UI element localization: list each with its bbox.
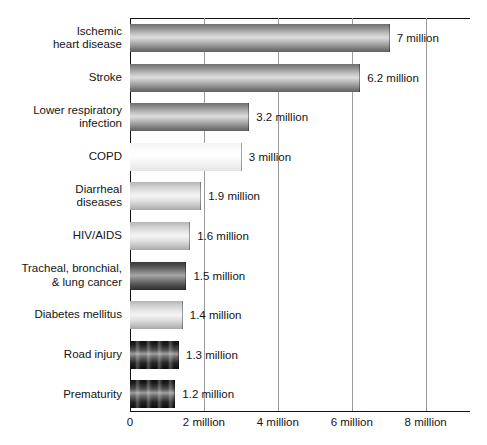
bar-row: 1.2 million: [130, 380, 470, 408]
bar: [130, 380, 175, 408]
bar: [130, 262, 186, 290]
bar-value-label: 1.2 million: [182, 380, 234, 408]
axis-bottom-line: [130, 411, 470, 412]
bar-row: 6.2 million: [130, 64, 470, 92]
category-label: COPD: [0, 150, 122, 164]
bar: [130, 222, 190, 250]
bar-value-label: 3.2 million: [256, 103, 308, 131]
chart-title-cropped: [120, 0, 470, 12]
bar: [130, 182, 201, 210]
category-label: Road injury: [0, 348, 122, 362]
bar-row: 1.6 million: [130, 222, 470, 250]
category-label: Tracheal, bronchial, & lung cancer: [0, 262, 122, 289]
bar-row: 1.4 million: [130, 301, 470, 329]
category-label: Diabetes mellitus: [0, 308, 122, 322]
bar: [130, 341, 179, 369]
bar: [130, 143, 242, 171]
category-label: Lower respiratory infection: [0, 104, 122, 131]
bar: [130, 24, 390, 52]
bar-value-label: 1.4 million: [190, 301, 242, 329]
bar: [130, 64, 360, 92]
x-tick-label: 8 million: [405, 416, 447, 428]
bar: [130, 301, 183, 329]
bar-value-label: 7 million: [397, 24, 439, 52]
bar-row: 1.3 million: [130, 341, 470, 369]
x-tick-label: 0: [127, 416, 133, 428]
bar-chart: 7 million6.2 million3.2 million3 million…: [0, 0, 487, 445]
category-label: Stroke: [0, 71, 122, 85]
category-label: Prematurity: [0, 388, 122, 402]
bar-row: 7 million: [130, 24, 470, 52]
bar: [130, 103, 249, 131]
x-tick-label: 4 million: [257, 416, 299, 428]
axis-top-line: [130, 18, 470, 19]
category-label: Ischemic heart disease: [0, 25, 122, 52]
bar-value-label: 1.9 million: [208, 182, 260, 210]
x-tick-label: 2 million: [183, 416, 225, 428]
bar-value-label: 1.3 million: [186, 341, 238, 369]
bar-row: 1.9 million: [130, 182, 470, 210]
bar-value-label: 1.5 million: [193, 262, 245, 290]
bar-value-label: 3 million: [249, 143, 291, 171]
bar-row: 3.2 million: [130, 103, 470, 131]
plot-area: 7 million6.2 million3.2 million3 million…: [130, 18, 470, 412]
category-label: HIV/AIDS: [0, 229, 122, 243]
category-label: Diarrheal diseases: [0, 183, 122, 210]
bar-value-label: 6.2 million: [367, 64, 419, 92]
bar-value-label: 1.6 million: [197, 222, 249, 250]
x-tick-label: 6 million: [331, 416, 373, 428]
bar-row: 1.5 million: [130, 262, 470, 290]
bar-row: 3 million: [130, 143, 470, 171]
